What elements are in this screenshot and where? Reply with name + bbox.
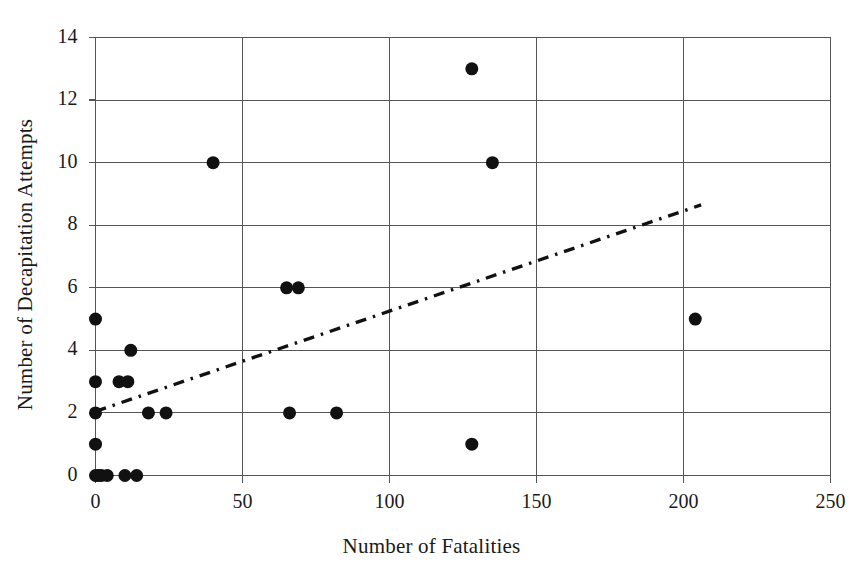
y-axis-title: Number of Decapitation Attempts: [13, 35, 38, 495]
data-point: [89, 375, 102, 388]
x-tick-label: 250: [796, 490, 863, 513]
x-tick-label: 200: [649, 490, 719, 513]
data-point: [89, 406, 102, 419]
grid-lines: [96, 38, 831, 476]
data-point: [89, 313, 102, 326]
data-point: [292, 281, 305, 294]
data-point: [124, 344, 137, 357]
x-tick-label: 0: [61, 490, 131, 513]
trendline: [96, 205, 702, 411]
data-point: [207, 156, 220, 169]
data-point: [130, 469, 143, 482]
axis-tick-marks: [89, 38, 831, 483]
data-point: [689, 313, 702, 326]
data-point: [283, 406, 296, 419]
data-point: [89, 438, 102, 451]
data-points: [89, 62, 702, 482]
plot-frame: [96, 38, 831, 476]
data-point: [330, 406, 343, 419]
data-point: [486, 156, 499, 169]
x-tick-label: 100: [355, 490, 425, 513]
trendline-path: [96, 205, 702, 411]
x-axis-title: Number of Fatalities: [0, 534, 863, 559]
data-point: [121, 375, 134, 388]
data-point: [118, 469, 131, 482]
data-point: [160, 406, 173, 419]
data-point: [142, 406, 155, 419]
data-point: [465, 62, 478, 75]
data-point: [465, 438, 478, 451]
scatter-chart: 02468101214 050100150200250 Number of Fa…: [0, 0, 863, 576]
x-tick-label: 50: [208, 490, 278, 513]
x-tick-label: 150: [502, 490, 572, 513]
data-point: [101, 469, 114, 482]
data-point: [280, 281, 293, 294]
